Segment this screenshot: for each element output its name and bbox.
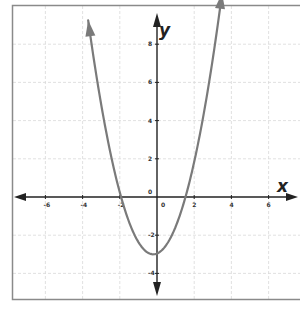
- plot-frame: [13, 6, 301, 300]
- y-tick-label: 8: [148, 40, 152, 47]
- y-tick-label: 2: [148, 155, 152, 162]
- x-tick-label: -6: [43, 201, 50, 208]
- y-tick-label: 6: [148, 78, 152, 85]
- y-tick-label: 4: [148, 117, 152, 124]
- y-tick-label: -2: [148, 231, 155, 238]
- curve-right-arrow-icon: [215, 0, 225, 9]
- y-axis-down-arrow-icon: [153, 282, 161, 296]
- parabola-chart: -6-4-20246-4-202468 x y: [0, 0, 300, 311]
- x-tick-label: 6: [267, 201, 271, 208]
- x-axis-left-arrow-icon: [14, 193, 26, 201]
- x-tick-label: 0: [161, 201, 165, 208]
- x-tick-label: -4: [81, 201, 88, 208]
- x-axis-label: x: [276, 176, 289, 196]
- x-tick-label: 4: [229, 201, 233, 208]
- x-tick-label: 2: [192, 201, 196, 208]
- y-tick-label: 0: [148, 188, 152, 195]
- curve-left-arrow-icon: [85, 20, 95, 37]
- y-axis-label: y: [159, 20, 171, 40]
- y-tick-label: -4: [148, 269, 155, 276]
- parabola-curve: [88, 0, 222, 254]
